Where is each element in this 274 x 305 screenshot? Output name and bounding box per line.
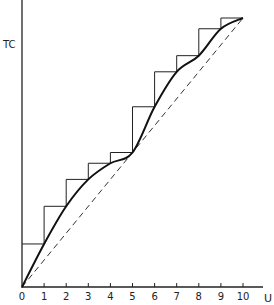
x-tick-label: 3	[85, 292, 91, 302]
chart-plot	[0, 0, 274, 305]
x-tick-label: 9	[218, 292, 224, 302]
x-tick-label: 2	[63, 292, 69, 302]
x-tick-label: 10	[237, 292, 250, 302]
x-tick-label: 0	[19, 292, 25, 302]
x-tick-label: 5	[129, 292, 135, 302]
x-tick-label: 6	[151, 292, 157, 302]
x-axis-label: U	[264, 293, 272, 304]
x-tick-label: 7	[174, 292, 180, 302]
y-axis-label: TC	[3, 40, 16, 50]
x-tick-label: 4	[107, 292, 113, 302]
step-function-line	[22, 18, 243, 244]
x-tick-label: 8	[196, 292, 202, 302]
x-tick-label: 1	[41, 292, 47, 302]
